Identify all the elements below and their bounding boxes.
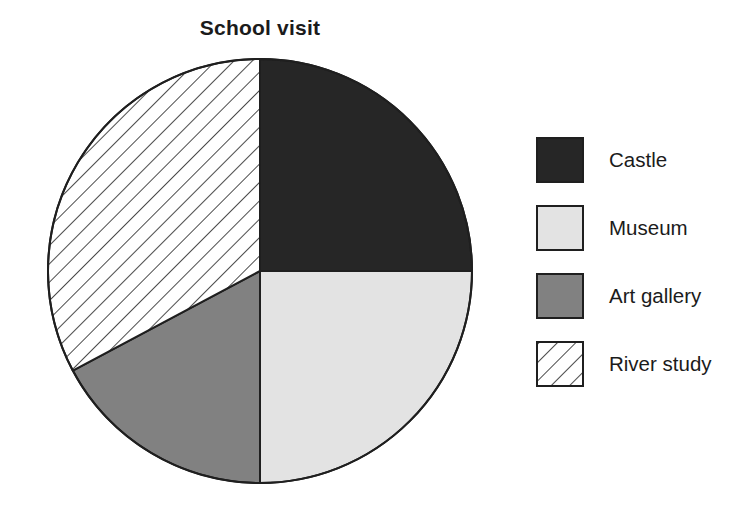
pie-plot-area (0, 0, 520, 506)
legend-label-castle: Castle (609, 148, 667, 172)
legend-item-museum[interactable]: Museum (536, 194, 752, 262)
legend-item-castle[interactable]: Castle (536, 126, 752, 194)
legend-item-river-study[interactable]: River study (536, 330, 752, 398)
legend-label-river-study: River study (609, 352, 712, 376)
pie-chart-figure: School visit Castle (0, 0, 756, 506)
art-gallery-swatch (536, 273, 584, 319)
legend-label-museum: Museum (609, 216, 688, 240)
legend-item-art-gallery[interactable]: Art gallery (536, 262, 752, 330)
museum-swatch (536, 205, 584, 251)
pie-slice-castle[interactable] (260, 59, 472, 271)
pie-svg (0, 0, 520, 506)
pie-slice-museum[interactable] (260, 271, 472, 483)
legend-label-art-gallery: Art gallery (609, 284, 701, 308)
chart-legend: Castle Museum Art gallery (536, 126, 752, 398)
castle-swatch (536, 137, 584, 183)
pie-slices-group (48, 59, 472, 483)
river-study-swatch (536, 341, 584, 387)
